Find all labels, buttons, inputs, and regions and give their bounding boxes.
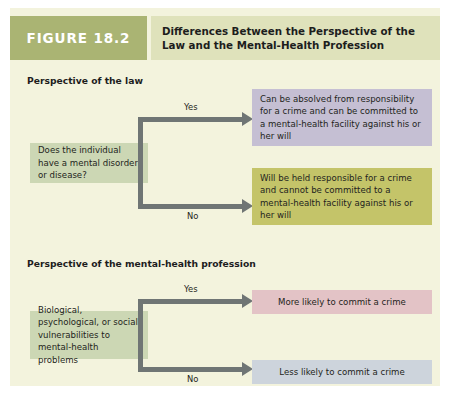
- law-question-box: Does the individual have a mental disord…: [30, 143, 148, 183]
- mental-health-section-heading: Perspective of the mental-health profess…: [27, 258, 256, 269]
- mental-health-no-outcome-text: Less likely to commit a crime: [252, 366, 432, 378]
- figure-header: FIGURE 18.2 Differences Between the Pers…: [10, 16, 440, 60]
- figure-number-label: FIGURE 18.2: [27, 30, 131, 46]
- mental-health-yes-branch-label: Yes: [184, 284, 198, 294]
- law-no-outcome-box: Will be held responsible for a crime and…: [252, 168, 432, 225]
- mental-health-premise-box: Biological, psychological, or social vul…: [30, 311, 148, 359]
- law-no-branch-label: No: [187, 211, 198, 221]
- figure-title-block: Differences Between the Perspective of t…: [151, 16, 440, 60]
- mental-health-yes-outcome-box: More likely to commit a crime: [252, 290, 432, 314]
- figure-number-block: FIGURE 18.2: [10, 16, 147, 60]
- mental-health-branch-connector-vertical: [138, 299, 143, 372]
- law-yes-outcome-box: Can be absolved from responsibility for …: [252, 89, 432, 146]
- law-branch-connector-vertical: [138, 117, 143, 209]
- mental-health-yes-connector-horizontal: [138, 299, 244, 304]
- figure-title: Differences Between the Perspective of t…: [151, 24, 440, 52]
- mental-health-no-outcome-box: Less likely to commit a crime: [252, 360, 432, 384]
- law-question-text: Does the individual have a mental disord…: [30, 144, 148, 181]
- law-yes-connector-horizontal: [138, 117, 244, 122]
- mental-health-yes-outcome-text: More likely to commit a crime: [252, 296, 432, 308]
- law-yes-outcome-text: Can be absolved from responsibility for …: [252, 93, 432, 143]
- figure-panel: FIGURE 18.2 Differences Between the Pers…: [10, 8, 440, 386]
- law-yes-branch-label: Yes: [184, 102, 198, 112]
- law-no-outcome-text: Will be held responsible for a crime and…: [252, 172, 432, 222]
- law-no-connector-horizontal: [138, 204, 244, 209]
- mental-health-premise-text: Biological, psychological, or social vul…: [30, 304, 148, 366]
- mental-health-no-branch-label: No: [187, 374, 198, 384]
- mental-health-no-connector-horizontal: [138, 367, 244, 372]
- law-section-heading: Perspective of the law: [27, 75, 143, 86]
